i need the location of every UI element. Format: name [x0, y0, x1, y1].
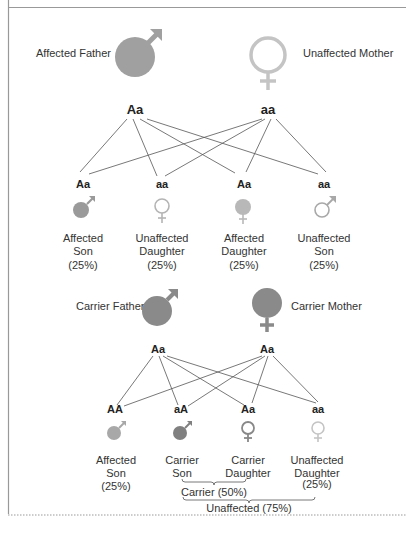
svg-text:Son: Son: [172, 467, 192, 479]
svg-text:(25%): (25%): [229, 259, 258, 271]
svg-text:Affected: Affected: [224, 232, 264, 244]
female-symbol-filled-icon: [235, 199, 251, 224]
punnett-lines-cross1: [80, 119, 326, 176]
carrier-father-label: Carrier Father: [76, 300, 145, 312]
child-genotype: aa: [156, 178, 169, 190]
female-symbol-outline-icon: [251, 38, 285, 90]
svg-text:Son: Son: [314, 245, 334, 257]
svg-text:Unaffected: Unaffected: [290, 454, 343, 466]
punnett-lines-cross2: [117, 356, 318, 406]
unaffected-group-label: Unaffected (75%): [206, 502, 291, 514]
female-symbol-filled-icon: [252, 288, 282, 332]
svg-text:Affected: Affected: [96, 454, 136, 466]
male-symbol-filled-icon: [115, 29, 162, 77]
child-genotype: AA: [107, 403, 123, 415]
cross1-child-affected-daughter: Aa Affected Daughter (25%): [221, 178, 267, 271]
male-symbol-filled-icon: [142, 289, 178, 326]
svg-text:Carrier: Carrier: [231, 454, 265, 466]
child-genotype: Aa: [237, 178, 252, 190]
svg-text:(25%): (25%): [309, 259, 338, 271]
child-genotype: aa: [312, 403, 325, 415]
mother-genotype: aa: [261, 102, 276, 117]
female-symbol-outline-icon: [312, 422, 324, 442]
father-genotype: Aa: [127, 102, 144, 117]
male-symbol-filled-icon: [107, 421, 126, 440]
svg-text:Son: Son: [106, 467, 126, 479]
svg-text:(25%): (25%): [302, 478, 331, 490]
svg-text:(25%): (25%): [101, 480, 130, 492]
child-genotype: aA: [174, 403, 188, 415]
svg-text:Unaffected: Unaffected: [297, 232, 350, 244]
svg-text:Daughter: Daughter: [139, 245, 185, 257]
inheritance-diagram: Affected Father Unaffected Mother Aa aa …: [0, 0, 406, 538]
svg-text:Daughter: Daughter: [225, 467, 271, 479]
male-symbol-filled-icon: [73, 196, 95, 218]
child-genotype: Aa: [241, 403, 256, 415]
cross2-child-unaffected-daughter: aa Unaffected Daughter (25%): [290, 403, 343, 490]
carrier-mother-label: Carrier Mother: [291, 300, 362, 312]
father-genotype: Aa: [151, 343, 166, 355]
svg-text:Son: Son: [73, 245, 93, 257]
child-genotype: Aa: [76, 178, 91, 190]
cross2-child-carrier-daughter: Aa Carrier Daughter: [225, 403, 271, 479]
svg-text:(25%): (25%): [68, 259, 97, 271]
male-symbol-filled-icon: [173, 421, 192, 440]
child-genotype: aa: [318, 178, 331, 190]
svg-text:Affected: Affected: [63, 232, 103, 244]
cross2-child-affected-son: AA Affected Son (25%): [96, 403, 136, 492]
mother-genotype: Aa: [260, 343, 275, 355]
unaffected-mother-label: Unaffected Mother: [303, 47, 394, 59]
cross1-child-affected-son: Aa Affected Son (25%): [63, 178, 103, 271]
cross1-child-unaffected-son: aa Unaffected Son (25%): [297, 178, 350, 271]
svg-text:(25%): (25%): [147, 259, 176, 271]
svg-text:Daughter: Daughter: [221, 245, 267, 257]
carrier-group-label: Carrier (50%): [181, 486, 247, 498]
brace-carrier: [182, 479, 246, 485]
svg-text:Unaffected: Unaffected: [135, 232, 188, 244]
cross2-child-carrier-son: aA Carrier Son: [165, 403, 199, 479]
female-symbol-outline-icon: [155, 199, 169, 223]
affected-father-label: Affected Father: [36, 47, 111, 59]
cross1-child-unaffected-daughter: aa Unaffected Daughter (25%): [135, 178, 188, 271]
svg-text:Carrier: Carrier: [165, 454, 199, 466]
female-symbol-outline-icon: [242, 422, 254, 442]
male-symbol-outline-icon: [315, 196, 336, 217]
